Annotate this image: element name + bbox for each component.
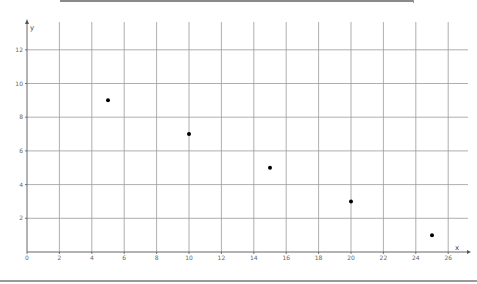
x-axis-arrow-icon [467, 250, 471, 254]
x-tick-label: 2 [57, 254, 61, 261]
x-tick-label: 0 [25, 254, 29, 261]
y-tick-label: 4 [19, 181, 23, 188]
x-tick-label: 26 [444, 254, 452, 261]
data-point [268, 166, 272, 170]
x-tick-label: 4 [90, 254, 94, 261]
data-point [187, 132, 191, 136]
y-axis-label: y [30, 24, 34, 32]
x-tick-label: 16 [282, 254, 290, 261]
data-point [430, 233, 434, 237]
y-tick-label: 10 [15, 80, 23, 87]
x-tick-label: 12 [218, 254, 226, 261]
y-tick-label: 2 [19, 214, 23, 221]
x-axis-label: x [455, 244, 459, 252]
y-tick-label: 6 [19, 147, 23, 154]
x-tick-label: 20 [347, 254, 355, 261]
data-point [349, 199, 353, 203]
x-tick-label: 22 [380, 254, 388, 261]
x-tick-label: 6 [122, 254, 126, 261]
x-tick-label: 14 [250, 254, 258, 261]
y-tick-labels: 24681012 [15, 46, 23, 222]
y-tick-label: 8 [19, 113, 23, 120]
data-point [106, 98, 110, 102]
x-tick-label: 18 [315, 254, 323, 261]
data-points [106, 98, 434, 237]
x-tick-label: 8 [155, 254, 159, 261]
x-tick-label: 10 [185, 254, 193, 261]
x-tick-labels: 02468101214161820222426 [25, 254, 452, 261]
y-tick-label: 12 [15, 46, 23, 53]
grid [27, 22, 468, 252]
x-tick-label: 24 [412, 254, 420, 261]
scatter-plot: 02468101214161820222426 24681012 x y [0, 0, 477, 284]
y-axis-arrow-icon [25, 19, 29, 24]
